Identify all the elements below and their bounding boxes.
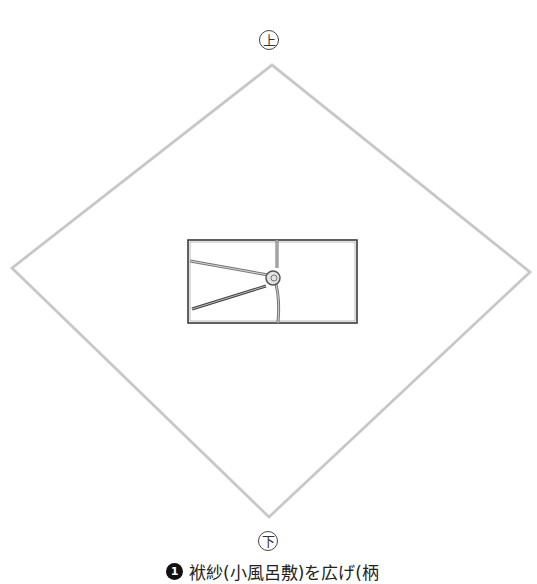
instruction-caption: 1 袱紗(小風呂敷)を広げ(柄	[166, 559, 379, 584]
top-direction-label: 上	[259, 30, 279, 50]
noshi-envelope-icon	[188, 240, 357, 323]
bottom-direction-label: 下	[258, 531, 278, 551]
step-number-badge: 1	[166, 563, 183, 580]
caption-text: 袱紗(小風呂敷)を広げ(柄	[189, 559, 379, 584]
